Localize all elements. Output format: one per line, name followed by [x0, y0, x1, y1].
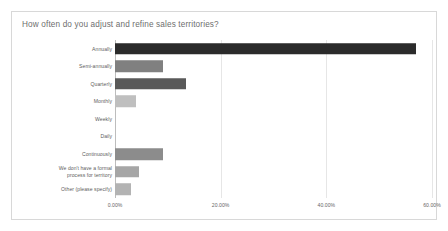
bar-category-label: Annually	[20, 46, 112, 52]
bar[interactable]	[115, 78, 186, 90]
bar-category-label-line2: process for territory	[20, 172, 112, 178]
bar-category-label: Other (please specify)	[20, 186, 112, 192]
bar-category-label-line1: Quarterly	[91, 81, 112, 87]
bar[interactable]	[115, 96, 136, 108]
x-axis-tick-labels: 0.00%20.00%40.00%60.00%	[12, 202, 436, 216]
bar-row: Other (please specify)	[12, 180, 436, 198]
x-axis-tick-label: 60.00%	[423, 202, 441, 208]
chart-card: How often do you adjust and refine sales…	[11, 11, 437, 220]
x-axis-tick-label: 20.00%	[212, 202, 230, 208]
bar-track	[115, 163, 436, 181]
bar-track	[115, 180, 436, 198]
bar-row: Semi-annually	[12, 58, 436, 76]
bar-category-label-line1: Annually	[92, 46, 112, 52]
bar-track	[115, 75, 436, 93]
bar-row: Annually	[12, 40, 436, 58]
bar[interactable]	[115, 183, 131, 195]
bar-category-label-line1: Semi-annually	[79, 63, 112, 69]
bar-track	[115, 145, 436, 163]
x-axis-tick-label: 40.00%	[318, 202, 336, 208]
bar[interactable]	[115, 43, 416, 55]
bar-category-label-line1: Daily	[100, 133, 112, 139]
bar-track	[115, 40, 436, 58]
bar-category-label: We don't have a formalprocess for territ…	[20, 165, 112, 177]
bar-category-label: Quarterly	[20, 81, 112, 87]
plot-area: AnnuallySemi-annuallyQuarterlyMonthlyWee…	[12, 40, 436, 220]
bar-row: Continuously	[12, 145, 436, 163]
bar-category-label-line1: Weekly	[95, 116, 112, 122]
bar[interactable]	[115, 148, 163, 160]
bar-category-label: Monthly	[20, 98, 112, 104]
bar-track	[115, 93, 436, 111]
bar-row: We don't have a formalprocess for territ…	[12, 163, 436, 181]
bar-category-label: Semi-annually	[20, 63, 112, 69]
bar-track	[115, 110, 436, 128]
bar-category-label: Daily	[20, 133, 112, 139]
bar-track	[115, 58, 436, 76]
bar-category-label-line1: Continuously	[82, 151, 112, 157]
bar-category-label-line1: Other (please specify)	[61, 186, 112, 192]
bar-track	[115, 128, 436, 146]
bar-rows: AnnuallySemi-annuallyQuarterlyMonthlyWee…	[12, 40, 436, 198]
bar-row: Quarterly	[12, 75, 436, 93]
bar-category-label-line1: Monthly	[94, 98, 112, 104]
x-axis-tick-label: 0.00%	[108, 202, 123, 208]
bar-category-label-line1: We don't have a formal	[59, 165, 112, 171]
bar-category-label: Continuously	[20, 151, 112, 157]
chart-title: How often do you adjust and refine sales…	[22, 20, 219, 29]
bar-row: Monthly	[12, 93, 436, 111]
bar[interactable]	[115, 166, 139, 178]
bar-category-label: Weekly	[20, 116, 112, 122]
bar[interactable]	[115, 61, 163, 73]
bar-row: Daily	[12, 128, 436, 146]
bar-row: Weekly	[12, 110, 436, 128]
